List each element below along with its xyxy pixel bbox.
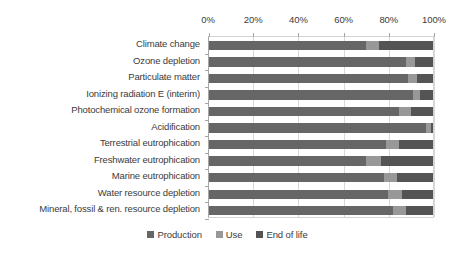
bar-segment-use[interactable]	[366, 41, 379, 50]
bar-segment-production[interactable]	[209, 156, 366, 165]
bar-segment-end-of-life[interactable]	[415, 57, 433, 66]
bar-segment-production[interactable]	[209, 206, 393, 215]
bar-segment-end-of-life[interactable]	[417, 74, 433, 83]
bar-segment-use[interactable]	[413, 90, 420, 99]
bar-segment-production[interactable]	[209, 123, 426, 132]
bar-segment-end-of-life[interactable]	[431, 123, 433, 132]
bar-segment-production[interactable]	[209, 173, 384, 182]
x-axis-tick-label: 100%	[422, 14, 446, 25]
bar-row	[209, 87, 433, 104]
y-axis-category-label: Marine eutrophication	[112, 168, 200, 185]
y-axis-category-label: Particulate matter	[128, 69, 200, 86]
y-axis-category-label: Freshwater eutrophication	[94, 152, 200, 169]
bar-segment-production[interactable]	[209, 90, 413, 99]
bar-row	[209, 37, 433, 54]
bar-row	[209, 153, 433, 170]
stacked-bar[interactable]	[209, 173, 433, 182]
x-axis-tickmark	[434, 33, 435, 37]
bar-segment-use[interactable]	[388, 190, 401, 199]
x-axis-tick-label: 80%	[379, 14, 398, 25]
legend-item[interactable]: Use	[216, 229, 243, 240]
bar-segment-use[interactable]	[384, 173, 397, 182]
y-axis-category-label: Acidification	[151, 119, 200, 136]
stacked-bar[interactable]	[209, 156, 433, 165]
x-gridline	[434, 37, 435, 217]
stacked-bar[interactable]	[209, 90, 433, 99]
x-axis-tick-label: 0%	[201, 14, 215, 25]
bar-segment-end-of-life[interactable]	[411, 107, 433, 116]
bar-row	[209, 202, 433, 219]
bar-segment-end-of-life[interactable]	[402, 190, 433, 199]
bar-segment-production[interactable]	[209, 140, 386, 149]
legend-swatch-production	[147, 231, 154, 238]
y-axis-category-label: Ozone depletion	[133, 53, 200, 70]
bar-row	[209, 103, 433, 120]
bar-row	[209, 70, 433, 87]
x-axis-tick-label: 40%	[289, 14, 308, 25]
plot-area	[208, 36, 434, 218]
stacked-bar[interactable]	[209, 206, 433, 215]
bar-row	[209, 120, 433, 137]
bar-segment-end-of-life[interactable]	[397, 173, 433, 182]
bar-row	[209, 169, 433, 186]
y-axis-category-label: Climate change	[136, 36, 200, 53]
bar-segment-end-of-life[interactable]	[420, 90, 433, 99]
y-axis-category-label: Water resource depletion	[98, 185, 200, 202]
bar-segment-use[interactable]	[386, 140, 399, 149]
bar-segment-use[interactable]	[366, 156, 382, 165]
stacked-bar[interactable]	[209, 107, 433, 116]
y-axis-tickmark	[205, 219, 209, 220]
legend-swatch-use	[216, 231, 223, 238]
bar-segment-use[interactable]	[408, 74, 417, 83]
bar-row	[209, 186, 433, 203]
bar-row	[209, 136, 433, 153]
bar-segment-use[interactable]	[406, 57, 415, 66]
bar-row	[209, 54, 433, 71]
legend-item[interactable]: End of life	[256, 229, 307, 240]
bar-segment-end-of-life[interactable]	[406, 206, 433, 215]
bar-segment-end-of-life[interactable]	[399, 140, 433, 149]
legend-label: Production	[157, 229, 201, 240]
x-axis-tick-label: 60%	[334, 14, 353, 25]
chart-plot-wrapper: 0%20%40%60%80%100% Climate changeOzone d…	[0, 0, 455, 222]
stacked-bar[interactable]	[209, 123, 433, 132]
y-axis-category-label: Mineral, fossil & ren. resource depletio…	[39, 201, 200, 218]
stacked-bar[interactable]	[209, 140, 433, 149]
bar-segment-production[interactable]	[209, 190, 388, 199]
x-axis-tick-label: 20%	[244, 14, 263, 25]
stacked-bar[interactable]	[209, 57, 433, 66]
stacked-bar[interactable]	[209, 74, 433, 83]
legend-swatch-end-of-life	[256, 231, 263, 238]
stacked-bar[interactable]	[209, 190, 433, 199]
legend-label: Use	[226, 229, 243, 240]
bar-segment-end-of-life[interactable]	[381, 156, 433, 165]
stacked-bar-chart: 0%20%40%60%80%100% Climate changeOzone d…	[0, 0, 455, 255]
y-axis-category-label: Ionizing radiation E (interim)	[86, 86, 200, 103]
y-axis-category-label: Photochemical ozone formation	[71, 102, 200, 119]
bar-segment-production[interactable]	[209, 107, 399, 116]
bar-segment-production[interactable]	[209, 74, 408, 83]
page-bottom-edge	[0, 249, 455, 255]
x-axis-tick-labels: 0%20%40%60%80%100%	[208, 14, 434, 28]
y-axis-category-labels: Climate changeOzone depletionParticulate…	[0, 36, 204, 218]
bar-segment-use[interactable]	[399, 107, 410, 116]
y-axis-category-label: Terrestrial eutrophication	[100, 135, 200, 152]
bar-segment-production[interactable]	[209, 57, 406, 66]
chart-legend: ProductionUseEnd of life	[0, 226, 455, 242]
bar-segment-end-of-life[interactable]	[379, 41, 433, 50]
bar-segment-production[interactable]	[209, 41, 366, 50]
legend-item[interactable]: Production	[147, 229, 201, 240]
bar-segment-use[interactable]	[393, 206, 406, 215]
legend-label: End of life	[266, 229, 307, 240]
stacked-bar[interactable]	[209, 41, 433, 50]
